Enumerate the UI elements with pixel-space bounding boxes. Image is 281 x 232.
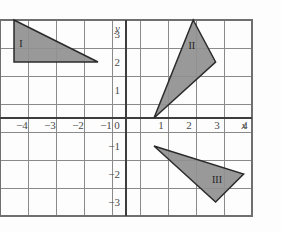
x-tick-label-5: 1 bbox=[158, 119, 164, 131]
x-tick-label-1: −3 bbox=[44, 119, 56, 131]
x-tick-label-6: 2 bbox=[186, 119, 192, 131]
shape-label-ii: II bbox=[188, 40, 195, 51]
y-tick-label-1: 2 bbox=[115, 56, 121, 68]
y-tick-label-5: −2 bbox=[108, 168, 120, 180]
x-tick-label-7: 3 bbox=[214, 119, 220, 131]
triangle-III bbox=[154, 146, 244, 202]
shape-label-i: I bbox=[19, 38, 22, 49]
y-axis-name: y bbox=[114, 22, 120, 34]
x-tick-label-3: −1 bbox=[100, 119, 112, 131]
x-axis-name: x bbox=[241, 119, 247, 131]
shapes-group bbox=[14, 20, 244, 202]
y-tick-label-4: −1 bbox=[108, 140, 120, 152]
x-tick-label-2: −2 bbox=[72, 119, 84, 131]
y-tick-label-6: −3 bbox=[108, 196, 120, 208]
x-tick-label-4: 0 bbox=[114, 119, 120, 131]
coordinate-plane-figure: −4−3−2−101234321−1−2−3 xy IIIIII bbox=[0, 0, 281, 232]
coordinate-grid-svg: −4−3−2−101234321−1−2−3 xy IIIIII bbox=[0, 0, 281, 232]
shape-label-iii: III bbox=[212, 174, 222, 185]
triangle-II bbox=[154, 20, 216, 118]
x-tick-label-0: −4 bbox=[16, 119, 28, 131]
y-tick-label-2: 1 bbox=[115, 84, 121, 96]
